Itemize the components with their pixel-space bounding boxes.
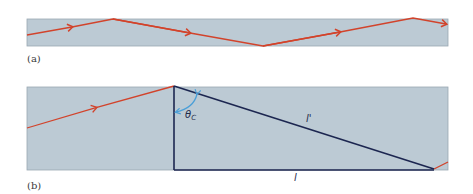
panel-b-label: (b) — [27, 180, 41, 191]
hypotenuse-label: l' — [306, 113, 312, 124]
fiber-b — [27, 87, 448, 170]
theta-subscript: C — [191, 114, 196, 122]
panel-a — [27, 18, 448, 46]
panel-a-label: (a) — [27, 53, 41, 64]
critical-angle-label: θC — [185, 109, 196, 122]
panel-b — [27, 86, 448, 170]
base-label: l — [294, 172, 297, 183]
figure-canvas — [0, 0, 473, 194]
